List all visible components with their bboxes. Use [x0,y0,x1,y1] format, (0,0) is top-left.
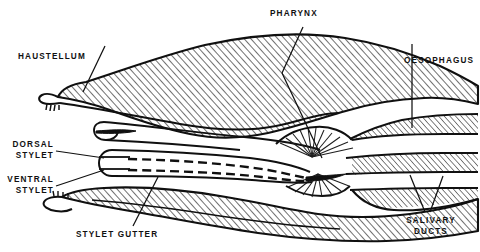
label-haustellum: HAUSTELLUM [18,52,86,63]
figure-canvas: HAUSTELLUM PHARYNX OESOPHAGUS DORSAL STY… [0,0,480,252]
label-pharynx: PHARYNX [270,9,318,20]
haustellum-tip [39,94,60,104]
stylet-sheath-top [112,150,310,172]
label-salivary-ducts: SALIVARY DUCTS [396,216,466,237]
stylet-bundle-group [99,150,478,190]
label-dorsal-stylet: DORSAL STYLET [0,140,54,161]
pharynx-valve [96,130,136,134]
label-stylet-gutter: STYLET GUTTER [76,230,158,241]
head-capsule-mid-hatch [352,153,478,175]
label-oesophagus: OESOPHAGUS [404,56,474,67]
leader-dorsal-stylet [56,151,104,158]
pharynx-chamber-floor [106,140,240,150]
leader-ventral-stylet [56,170,104,186]
label-ventral-stylet: VENTRAL STYLET [0,175,54,196]
pharyngeal-muscle-group [276,127,353,197]
proboscis-diagram [0,0,480,252]
haustellum-bristles [46,104,59,111]
stylet-tip-junction [306,174,346,181]
stylet-base-cap [99,150,112,176]
